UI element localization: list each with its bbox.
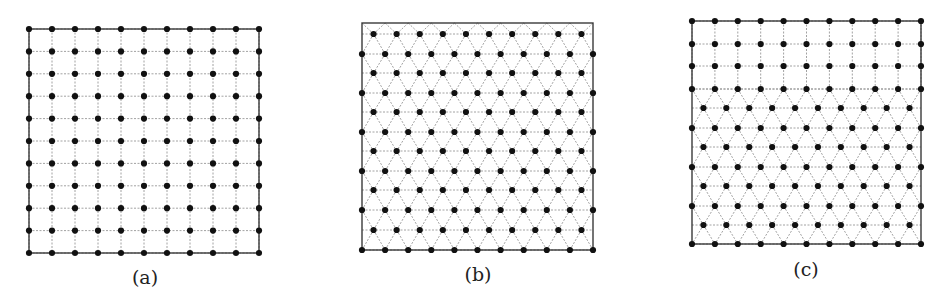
lattice-node	[906, 105, 912, 111]
bond-line	[784, 128, 795, 147]
bond-line	[772, 225, 783, 244]
lattice-node	[532, 109, 538, 115]
bond-line	[570, 93, 582, 112]
bond-line	[385, 171, 397, 190]
lattice-node	[486, 31, 492, 37]
lattice-node	[906, 183, 912, 189]
bond-line	[726, 147, 737, 167]
bond-line	[362, 171, 374, 190]
lattice-node	[210, 250, 216, 256]
bond-line	[715, 128, 726, 147]
lattice-node	[118, 71, 124, 77]
lattice-node	[405, 51, 411, 57]
bond-line	[887, 108, 898, 128]
lattice-node	[451, 168, 457, 174]
lattice-node	[486, 148, 492, 154]
bond-line	[772, 108, 783, 128]
lattice-node	[521, 51, 527, 57]
bond-line	[875, 108, 886, 128]
lattice-node	[233, 48, 239, 54]
lattice-node	[359, 129, 365, 135]
bond-line	[749, 128, 760, 147]
bond-line	[374, 151, 386, 171]
bond-line	[581, 54, 593, 73]
lattice-node	[141, 116, 147, 122]
lattice-node	[781, 241, 787, 247]
lattice-node	[118, 138, 124, 144]
bond-line	[501, 34, 513, 54]
lattice-node	[26, 93, 32, 99]
bond-line	[454, 230, 466, 250]
bond-line	[841, 147, 852, 167]
lattice-node	[555, 227, 561, 233]
lattice-node	[884, 183, 890, 189]
bond-line	[852, 225, 863, 244]
lattice-node	[428, 247, 434, 253]
lattice-node	[884, 105, 890, 111]
bond-line	[466, 230, 478, 250]
bond-line	[512, 93, 524, 112]
lattice-node	[210, 138, 216, 144]
lattice-node	[486, 227, 492, 233]
bond-line	[547, 73, 559, 93]
bond-line	[443, 230, 455, 250]
bond-line	[408, 34, 420, 54]
lattice-node	[758, 241, 764, 247]
lattice-node	[590, 90, 596, 96]
lattice-node	[544, 207, 550, 213]
lattice-node	[72, 48, 78, 54]
bond-line	[512, 151, 524, 171]
lattice-node	[521, 207, 527, 213]
bond-line	[910, 167, 921, 186]
lattice-node	[486, 109, 492, 115]
bond-line	[581, 132, 593, 151]
bond-line	[454, 171, 466, 190]
bond-line	[489, 34, 501, 54]
lattice-node	[370, 148, 376, 154]
lattice-node	[463, 31, 469, 37]
lattice-node	[781, 63, 787, 69]
bond-line	[489, 54, 501, 73]
bond-line	[408, 112, 420, 132]
bond-line	[535, 112, 547, 132]
bond-line	[738, 186, 749, 206]
lattice-node	[49, 48, 55, 54]
bond-line	[841, 206, 852, 225]
bond-line	[715, 206, 726, 225]
lattice-node	[815, 183, 821, 189]
lattice-node	[463, 70, 469, 76]
lattice-node	[689, 63, 695, 69]
lattice-node	[164, 250, 170, 256]
lattice-node	[417, 70, 423, 76]
lattice-node	[769, 105, 775, 111]
lattice-node	[567, 90, 573, 96]
bond-line	[864, 167, 875, 186]
lattice-node	[210, 116, 216, 122]
lattice-node	[758, 164, 764, 170]
bond-line	[749, 147, 760, 167]
lattice-node	[405, 247, 411, 253]
lattice-node	[838, 144, 844, 150]
bond-line	[910, 206, 921, 225]
lattice-node	[233, 205, 239, 211]
bond-line	[466, 151, 478, 171]
lattice-node	[256, 160, 262, 166]
bond-line	[478, 112, 490, 132]
bond-line	[692, 206, 703, 225]
lattice-node	[712, 86, 718, 92]
bond-line	[512, 54, 524, 73]
lattice-node	[826, 125, 832, 131]
bond-line	[726, 108, 737, 128]
lattice-node	[590, 168, 596, 174]
lattice-node	[187, 48, 193, 54]
lattice-node	[498, 247, 504, 253]
lattice-node	[26, 116, 32, 122]
lattice-node	[872, 241, 878, 247]
lattice-node	[210, 160, 216, 166]
bond-line	[726, 225, 737, 244]
bond-line	[772, 167, 783, 186]
bond-line	[875, 225, 886, 244]
lattice-node	[884, 222, 890, 228]
lattice-node	[405, 129, 411, 135]
bond-line	[910, 89, 921, 108]
